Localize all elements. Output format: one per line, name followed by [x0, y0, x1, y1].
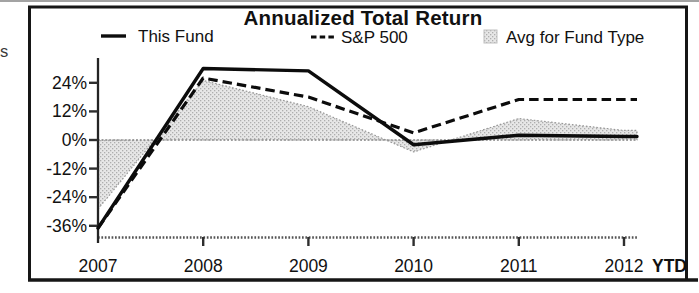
x-tick-label: 2009: [289, 256, 328, 276]
cut-off-text-fragment: s: [0, 43, 12, 60]
avg-fund-type-area: [98, 80, 637, 209]
chart-legend: This Fund S&P 500 Avg for Fund Type: [101, 27, 644, 47]
plot-area: 24%12%0%-12%-24%-36%20072008200920102011…: [46, 58, 643, 276]
legend-shaded-area-swatch: [484, 30, 497, 43]
y-tick-label: 12%: [52, 101, 87, 121]
this-fund-line: [98, 69, 637, 229]
legend-label-avg-fund-type: Avg for Fund Type: [506, 28, 644, 47]
y-tick-label: -36%: [46, 216, 87, 236]
y-tick-label: -12%: [46, 159, 87, 179]
y-tick-label: 0%: [62, 130, 87, 150]
sp500-line: [98, 78, 637, 228]
x-tick-label: 2011: [500, 256, 538, 276]
chart-title: Annualized Total Return: [244, 6, 483, 29]
x-tick-label: 2012: [605, 256, 644, 276]
y-tick-label: 24%: [52, 73, 87, 93]
y-tick-label: -24%: [46, 187, 87, 207]
x-axis-ytd-label: YTD: [652, 256, 687, 276]
x-tick-label: 2007: [79, 256, 118, 276]
legend-label-sp500: S&P 500: [341, 28, 408, 47]
x-tick-label: 2010: [394, 256, 433, 276]
legend-label-this-fund: This Fund: [138, 27, 214, 46]
x-tick-label: 2008: [184, 256, 223, 276]
annualized-total-return-chart: Annualized Total Return This Fund S&P 50…: [0, 0, 699, 293]
